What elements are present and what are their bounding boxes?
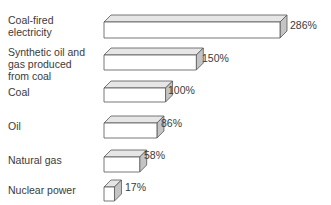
bar-coal xyxy=(104,81,173,102)
category-label-coal: Coal xyxy=(8,86,30,98)
category-label-oil: Oil xyxy=(8,120,21,132)
value-label-coal-fired-electricity: 286% xyxy=(290,19,317,31)
category-label-coal-fired-electricity: Coal-fired electricity xyxy=(8,14,54,38)
category-label-nuclear-power: Nuclear power xyxy=(8,184,76,196)
label-line: Synthetic oil and xyxy=(8,46,85,58)
value-label-coal: 100% xyxy=(168,84,195,96)
value-label-synthetic-oil-gas: 150% xyxy=(202,52,229,64)
bar-synthetic-oil-and-gas-produced-from-coal xyxy=(104,48,203,70)
label-line: Natural gas xyxy=(8,154,62,166)
bar-natural-gas xyxy=(104,150,147,172)
value-label-natural-gas: 58% xyxy=(144,149,165,161)
label-line: from coal xyxy=(8,70,85,82)
bar-nuclear-power xyxy=(104,180,121,201)
label-line: gas produced xyxy=(8,58,85,70)
bar-coal-fired-electricity xyxy=(104,15,287,38)
label-line: electricity xyxy=(8,26,54,38)
label-line: Coal-fired xyxy=(8,14,54,26)
label-line: Nuclear power xyxy=(8,184,76,196)
label-line: Coal xyxy=(8,86,30,98)
label-line: Oil xyxy=(8,120,21,132)
category-label-natural-gas: Natural gas xyxy=(8,154,62,166)
value-label-nuclear-power: 17% xyxy=(125,181,146,193)
category-label-synthetic-oil-gas: Synthetic oil and gas produced from coal xyxy=(8,46,85,82)
value-label-oil: 86% xyxy=(161,117,182,129)
bar-oil xyxy=(104,116,164,138)
